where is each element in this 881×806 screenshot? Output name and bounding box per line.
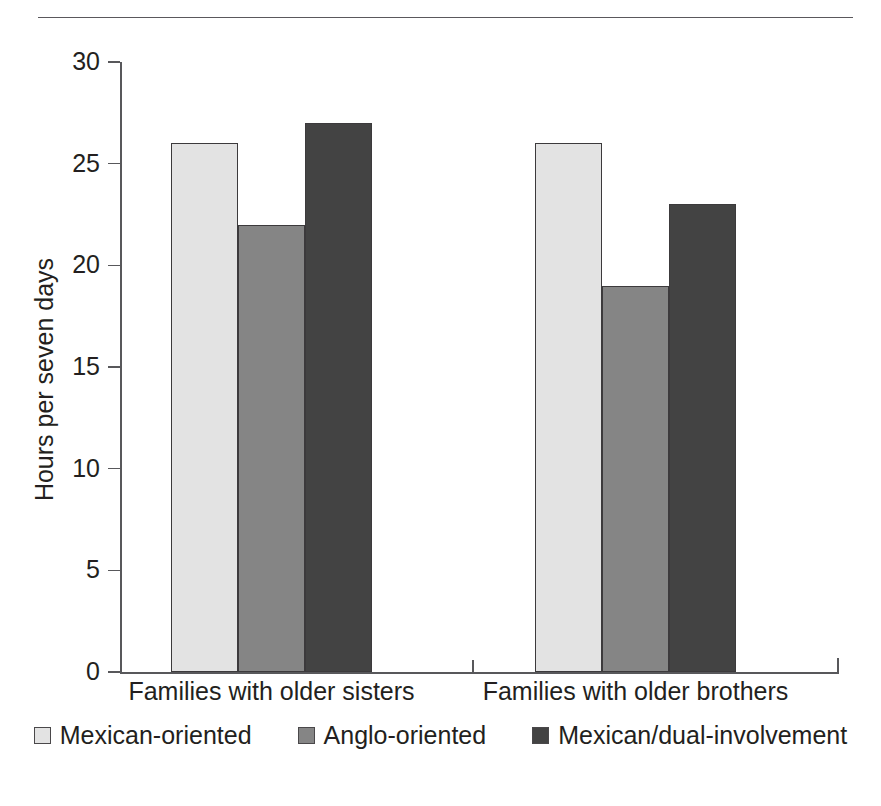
- chart-legend: Mexican-orientedAnglo-orientedMexican/du…: [0, 722, 881, 749]
- legend-label: Anglo-oriented: [324, 722, 487, 749]
- bar-chart-figure: Hours per seven days 051015202530 Famili…: [0, 0, 881, 806]
- legend-item[interactable]: Mexican/dual-involvement: [532, 722, 847, 749]
- y-axis-tick-label-text: 20: [34, 252, 100, 277]
- bar: [602, 286, 669, 672]
- bar: [535, 143, 602, 672]
- plot-area: Hours per seven days 051015202530 Famili…: [0, 0, 881, 690]
- y-axis-tick-label: 5: [24, 557, 100, 582]
- y-axis-tick: [108, 61, 120, 63]
- legend-item[interactable]: Mexican-oriented: [34, 722, 252, 749]
- legend-item[interactable]: Anglo-oriented: [298, 722, 487, 749]
- y-axis-tick-label: 25: [24, 151, 100, 176]
- y-axis-tick-label-text: 5: [34, 557, 100, 582]
- y-axis-tick: [108, 265, 120, 267]
- legend-swatch-icon: [34, 727, 51, 744]
- y-axis-tick: [108, 570, 120, 572]
- legend-swatch-icon: [532, 727, 549, 744]
- y-axis-tick-label: 10: [24, 456, 100, 481]
- y-axis-tick-label-text: 15: [34, 354, 100, 379]
- legend-label: Mexican/dual-involvement: [558, 722, 847, 749]
- y-axis-tick: [108, 468, 120, 470]
- y-axis-tick: [108, 163, 120, 165]
- legend-swatch-icon: [298, 727, 315, 744]
- x-axis-category-label: Families with older sisters: [72, 676, 472, 706]
- y-axis-tick: [108, 366, 120, 368]
- y-axis-tick-label-text: 30: [34, 49, 100, 74]
- x-axis-mid-tick: [472, 660, 474, 672]
- x-axis-line: [120, 672, 839, 674]
- y-axis-tick-label-text: 10: [34, 456, 100, 481]
- y-axis-tick-label: 30: [24, 49, 100, 74]
- x-axis-end-tick: [837, 658, 839, 673]
- bar: [305, 123, 372, 672]
- bar: [171, 143, 238, 672]
- y-axis-tick: [108, 671, 120, 673]
- bar: [238, 225, 305, 672]
- legend-label: Mexican-oriented: [60, 722, 252, 749]
- y-axis-tick-label: 15: [24, 354, 100, 379]
- y-axis-tick-label: 20: [24, 252, 100, 277]
- y-axis-tick-label-text: 25: [34, 151, 100, 176]
- bar: [669, 204, 736, 672]
- x-axis-category-label: Families with older brothers: [436, 676, 836, 706]
- y-axis-line: [120, 62, 122, 673]
